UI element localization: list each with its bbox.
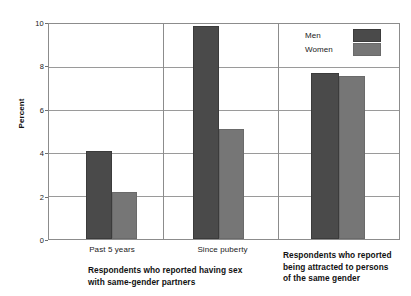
caption-right-line-2: being attracted to persons: [283, 262, 411, 274]
bar-men-attracted: [311, 73, 339, 239]
x-label-past-5-years: Past 5 years: [62, 245, 162, 254]
y-tick-label-2: 2: [18, 193, 44, 202]
bar-women-since-puberty: [219, 129, 244, 239]
gridline-8: [49, 67, 399, 68]
x-label-since-puberty: Since puberty: [170, 245, 275, 254]
y-tick-label-10: 10: [18, 19, 44, 28]
plot-area: Men Women: [48, 23, 400, 240]
bar-women-attracted: [339, 76, 365, 239]
bar-men-since-puberty: [193, 26, 219, 239]
panel-separator-2: [278, 24, 279, 239]
legend-swatch-women-icon: [353, 43, 381, 56]
legend-item-men: Men: [305, 28, 393, 42]
legend-label-women: Women: [305, 45, 353, 54]
y-tick-label-8: 8: [18, 62, 44, 71]
caption-left-line-2: with same-gender partners: [88, 277, 278, 289]
panel-separator-1: [163, 24, 164, 239]
caption-left-panel: Respondents who reported having sex with…: [88, 265, 278, 288]
caption-right-line-3: of the same gender: [283, 273, 411, 285]
y-tick-mark-0: [45, 240, 48, 241]
legend-swatch-men-icon: [353, 29, 381, 42]
legend: Men Women: [305, 28, 393, 60]
bar-men-past-5-years: [86, 151, 112, 239]
bar-chart: Percent 10 8 6 4 2 0 Men: [0, 0, 411, 296]
y-tick-label-6: 6: [18, 106, 44, 115]
legend-item-women: Women: [305, 42, 393, 56]
bar-women-past-5-years: [112, 192, 137, 239]
y-tick-label-4: 4: [18, 149, 44, 158]
caption-right-line-1: Respondents who reported: [283, 250, 411, 262]
legend-label-men: Men: [305, 31, 353, 40]
caption-left-line-1: Respondents who reported having sex: [88, 265, 278, 277]
y-tick-label-0: 0: [18, 236, 44, 245]
caption-right-panel: Respondents who reported being attracted…: [283, 250, 411, 285]
